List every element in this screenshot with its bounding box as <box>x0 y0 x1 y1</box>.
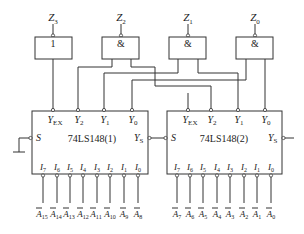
gate-symbol: & <box>117 38 125 49</box>
svg-text:A7: A7 <box>172 209 182 220</box>
gate-z3-not: Z3 1 <box>35 11 72 59</box>
pin-s: S <box>36 132 41 143</box>
svg-text:A6: A6 <box>185 209 195 220</box>
priority-encoder-circuit: Z3 1 Z2 & Z1 & Z0 & <box>0 0 304 234</box>
svg-text:A15: A15 <box>35 209 48 220</box>
svg-text:A5: A5 <box>198 209 208 220</box>
gate-z2-nand: Z2 & <box>102 11 139 59</box>
svg-text:A13: A13 <box>62 209 75 220</box>
chip1-signal-labels: A15 A14 A13 A12 A11 A10 A9 A8 <box>35 208 142 220</box>
gate-symbol: 1 <box>51 38 56 49</box>
svg-text:A14: A14 <box>49 209 62 220</box>
chip-name: 74LS148(2) <box>200 133 248 145</box>
chip2-signal-labels: A7 A6 A5 A4 A3 A2 A1 A0 <box>172 208 276 220</box>
svg-text:A2: A2 <box>239 209 249 220</box>
svg-text:A9: A9 <box>119 209 129 220</box>
svg-text:A1: A1 <box>252 209 262 220</box>
pin-s: S <box>171 132 176 143</box>
gate-symbol: & <box>251 38 259 49</box>
z3-label: Z3 <box>48 11 58 26</box>
svg-text:A11: A11 <box>89 209 101 220</box>
gate-z0-nand: Z0 & <box>236 11 273 59</box>
svg-text:A0: A0 <box>266 209 276 220</box>
gate-symbol: & <box>184 38 192 49</box>
gate-z1-nand: Z1 & <box>169 11 206 59</box>
chip-name: 74LS148(1) <box>68 133 116 145</box>
ground-wire <box>19 138 29 152</box>
z0-label: Z0 <box>250 11 260 26</box>
z1-label: Z1 <box>183 11 193 26</box>
svg-text:A8: A8 <box>133 209 143 220</box>
svg-text:A3: A3 <box>225 209 235 220</box>
svg-text:A12: A12 <box>76 209 89 220</box>
chip-74ls148-2: YEX Y2 Y1 Y0 74LS148(2) S YS I7 I6 I5 I4… <box>164 108 294 220</box>
svg-text:A4: A4 <box>212 209 222 220</box>
chip-74ls148-1: YEX Y2 Y1 Y0 74LS148(1) S YS I7 I6 I5 I4… <box>13 108 151 220</box>
z2-label: Z2 <box>116 11 126 26</box>
svg-text:A10: A10 <box>103 209 116 220</box>
wiring <box>53 59 265 109</box>
